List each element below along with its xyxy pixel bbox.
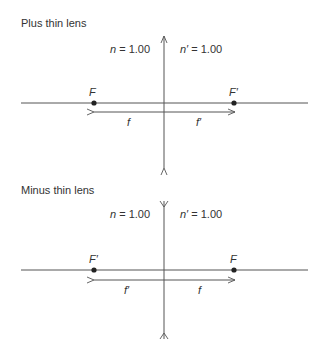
focal-point-left-label: F <box>89 86 97 98</box>
lens-diagrams: n = 1.00 n′ = 1.00 F F′ f f′ n = 1.00 n′… <box>0 0 323 353</box>
focal-length-left-label: f <box>127 116 131 128</box>
focal-length-right-label: f′ <box>196 116 202 128</box>
svg-text:n = 1.00: n = 1.00 <box>110 208 150 220</box>
focal-point-dot-right <box>231 100 236 105</box>
minus-lens-diagram: n = 1.00 n′ = 1.00 F′ F f′ f <box>21 201 308 339</box>
svg-text:n = 1.00: n = 1.00 <box>110 43 150 55</box>
focal-point-dot-left <box>91 100 96 105</box>
focal-point-dot-left <box>91 267 96 272</box>
focal-point-left-label: F′ <box>89 253 99 265</box>
focal-point-dot-right <box>231 267 236 272</box>
svg-text:n′ = 1.00: n′ = 1.00 <box>180 43 222 55</box>
svg-text:n′ = 1.00: n′ = 1.00 <box>180 208 222 220</box>
focal-length-right-label: f <box>198 284 202 296</box>
focal-point-right-label: F′ <box>229 86 239 98</box>
plus-lens-diagram: n = 1.00 n′ = 1.00 F F′ f f′ <box>21 36 308 168</box>
focal-length-left-label: f′ <box>124 284 130 296</box>
focal-point-right-label: F <box>230 253 238 265</box>
